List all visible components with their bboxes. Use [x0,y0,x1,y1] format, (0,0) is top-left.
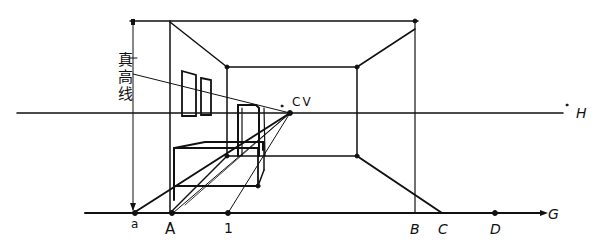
cv-point [288,111,293,116]
ground-line-arrow [540,210,548,216]
window-1 [182,71,196,116]
point-label-B: B [410,222,420,236]
window-2 [201,78,211,115]
cv-label: CV [292,96,313,108]
point-label-1: 1 [224,221,233,235]
furniture-box [174,142,263,200]
point-label-D: D [490,222,501,236]
point-label-C: C [438,222,448,236]
point-label-A: A [165,222,175,237]
perspective-diagram [0,0,607,251]
ground-label: G [548,207,559,221]
horizon-label: H [576,106,587,120]
height-line-label: 真高线 [117,52,133,103]
point-label-a: a [131,218,138,230]
